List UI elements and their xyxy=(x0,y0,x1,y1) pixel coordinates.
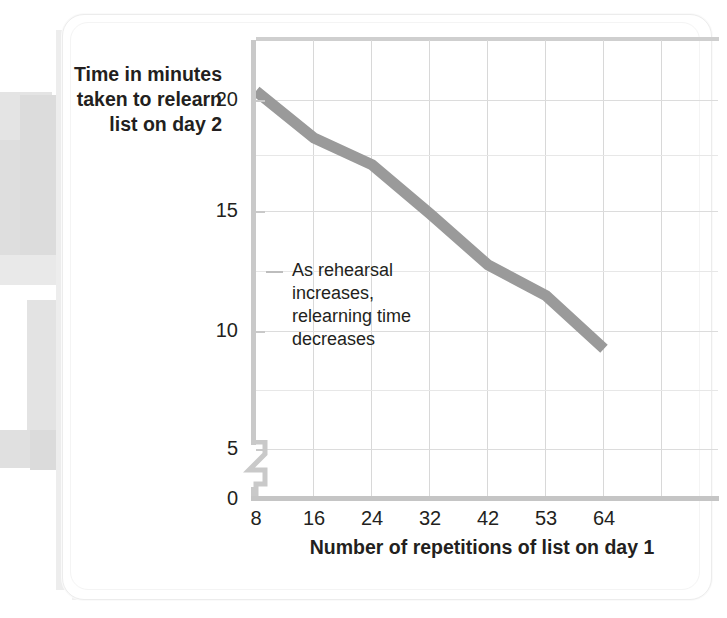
y-tick-label-10: 10 xyxy=(196,319,238,342)
chart-annotation: As rehearsal increases, relearning time … xyxy=(292,259,462,351)
annotation-line2: increases, xyxy=(292,283,374,303)
y-tick-mark-10 xyxy=(256,331,265,333)
y-axis-title-line3: list on day 2 xyxy=(109,113,222,135)
x-axis-title: Number of repetitions of list on day 1 xyxy=(232,536,727,559)
y-tick-label-5: 5 xyxy=(196,437,238,460)
line-chart: Time in minutes taken to relearn list on… xyxy=(0,0,727,618)
x-tick-label-32: 32 xyxy=(400,507,460,530)
y-tick-mark-20 xyxy=(256,100,265,102)
y-tick-mark-5 xyxy=(256,449,265,451)
x-tick-label-42: 42 xyxy=(458,507,518,530)
x-axis-spine xyxy=(251,496,719,501)
y-tick-label-15: 15 xyxy=(196,199,238,222)
y-tick-label-20: 20 xyxy=(196,88,238,111)
x-tick-label-53: 53 xyxy=(516,507,576,530)
annotation-line4: decreases xyxy=(292,329,375,349)
annotation-leader-line xyxy=(266,271,283,273)
y-axis-title-line1: Time in minutes xyxy=(74,63,222,85)
x-tick-label-8: 8 xyxy=(226,507,286,530)
x-tick-label-16: 16 xyxy=(284,507,344,530)
y-axis-title: Time in minutes taken to relearn list on… xyxy=(40,62,222,137)
x-tick-label-24: 24 xyxy=(342,507,402,530)
annotation-line1: As rehearsal xyxy=(292,260,393,280)
y-tick-mark-15 xyxy=(256,211,265,213)
annotation-line3: relearning time xyxy=(292,306,411,326)
x-tick-label-64: 64 xyxy=(574,507,634,530)
